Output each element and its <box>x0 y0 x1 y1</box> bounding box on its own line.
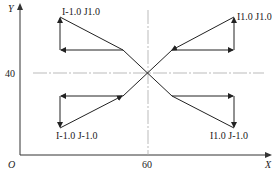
diagram-canvas: Y O X 40 60 I-1.0 J1.0 I1.0 J1.0 I-1.0 J… <box>0 0 277 184</box>
label-upper-right: I1.0 J1.0 <box>237 11 272 22</box>
x-tick-label: 60 <box>142 159 152 170</box>
y-tick-label: 40 <box>5 68 15 79</box>
quadrant-lower-left <box>60 96 123 128</box>
label-upper-left: I-1.0 J1.0 <box>62 6 100 17</box>
ijk-direction-diagram: Y O X 40 60 I-1.0 J1.0 I1.0 J1.0 I-1.0 J… <box>0 0 277 184</box>
label-lower-left: I-1.0 J-1.0 <box>56 130 97 141</box>
origin-label: O <box>8 159 15 170</box>
label-lower-right: I1.0 J-1.0 <box>210 130 248 141</box>
x-axis-label: X <box>264 159 272 170</box>
quadrant-upper-left <box>60 17 123 50</box>
x-axis-arrow-icon <box>265 152 272 158</box>
quadrant-lower-right <box>172 96 234 128</box>
y-axis-arrow-icon <box>17 3 23 10</box>
y-axis-label: Y <box>8 3 15 14</box>
quadrant-upper-right <box>172 17 234 50</box>
